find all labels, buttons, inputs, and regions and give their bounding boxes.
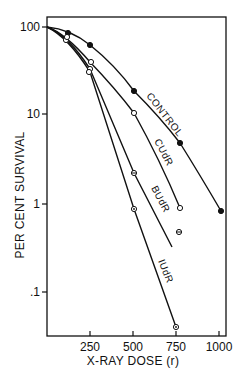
y-axis-title: PER CENT SURVIVAL [13,131,27,258]
x-tick-1000: 1000 [206,340,233,354]
x-tick-500: 500 [123,340,143,354]
cudr-curve [47,27,180,208]
label-control: CONTROL [144,90,185,138]
y-tick-1: 1 [33,197,40,211]
y-tick-100: 100 [20,20,40,34]
x-tick-750: 750 [166,340,186,354]
y-tick-10: 10 [27,107,41,121]
curves [47,27,221,327]
iudr-curve [47,27,176,327]
budr-curve [47,27,172,247]
control-points [65,30,223,213]
label-cudr: CUdR [152,137,175,168]
y-axis [42,27,47,292]
x-tick-250: 250 [80,340,100,354]
control-curve [47,27,221,211]
survival-chart: 100 10 1 .1 250 500 750 1000 X-RAY DOSE … [0,0,247,383]
x-axis [90,331,219,336]
y-tick-0.1: .1 [30,285,40,299]
x-axis-title: X-RAY DOSE (r) [87,354,179,368]
